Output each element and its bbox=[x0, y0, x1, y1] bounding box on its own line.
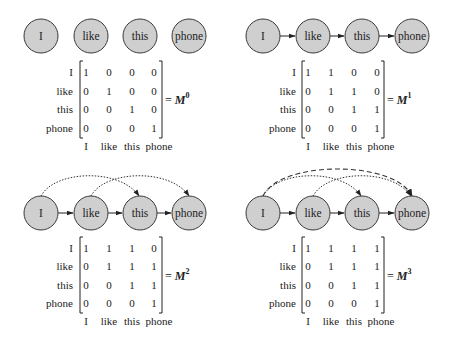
matrix-cell: 0 bbox=[305, 297, 311, 309]
row-label: like bbox=[57, 85, 74, 97]
node-i: I bbox=[24, 196, 58, 230]
matrix-cell: 1 bbox=[151, 260, 157, 272]
row-label: phone bbox=[46, 297, 73, 309]
matrix-cell: 0 bbox=[83, 122, 89, 134]
matrix-cell: 1 bbox=[351, 242, 357, 254]
col-label: phone bbox=[368, 140, 395, 152]
matrix-m3: I like this phone 1 1 1 1 0 1 1 1 0 0 1 … bbox=[269, 237, 411, 327]
node-label: I bbox=[261, 30, 265, 42]
matrix-cell: 1 bbox=[328, 242, 334, 254]
node-i: I bbox=[246, 19, 280, 53]
matrix-cell: 0 bbox=[305, 85, 311, 97]
node-label: like bbox=[304, 30, 321, 42]
node-label: this bbox=[132, 207, 149, 219]
node-label: I bbox=[39, 207, 43, 219]
edge-i-phone-dashed bbox=[263, 169, 412, 196]
matrix-equation: = M2 bbox=[165, 267, 189, 284]
matrix-cell: 0 bbox=[328, 279, 334, 291]
matrix-cell: 0 bbox=[351, 297, 357, 309]
node-phone: phone bbox=[172, 196, 206, 230]
edge-i-this-dotted bbox=[41, 176, 139, 196]
node-this: this bbox=[123, 196, 157, 230]
matrix-cell: 1 bbox=[328, 85, 334, 97]
matrix-cell: 1 bbox=[351, 103, 357, 115]
matrix-cell: 1 bbox=[351, 279, 357, 291]
matrix-cell: 1 bbox=[129, 260, 135, 272]
col-label: I bbox=[306, 315, 310, 327]
matrix-cell: 0 bbox=[83, 85, 89, 97]
node-label: this bbox=[354, 30, 371, 42]
panel-m2: I like this phone I like this phone 1 bbox=[24, 176, 206, 327]
node-label: like bbox=[82, 207, 99, 219]
edge-like-phone-dotted bbox=[313, 176, 411, 196]
matrix-cell: 1 bbox=[129, 103, 135, 115]
matrix-cell: 0 bbox=[151, 103, 157, 115]
edge-like-phone-dotted bbox=[91, 176, 189, 196]
matrix-cell: 1 bbox=[328, 66, 334, 78]
node-i: I bbox=[246, 196, 280, 230]
right-bracket bbox=[159, 61, 162, 138]
matrix-cell: 0 bbox=[106, 103, 112, 115]
matrix-cell: 0 bbox=[351, 66, 357, 78]
graph-m3: I like this phone bbox=[246, 169, 429, 230]
node-phone: phone bbox=[395, 19, 429, 53]
right-bracket bbox=[381, 61, 384, 138]
row-label: phone bbox=[269, 297, 296, 309]
matrix-cell: 1 bbox=[106, 85, 112, 97]
node-label: phone bbox=[175, 30, 203, 43]
node-label: this bbox=[354, 207, 371, 219]
row-label: like bbox=[57, 260, 74, 272]
matrix-cell: 0 bbox=[106, 66, 112, 78]
matrix-cell: 1 bbox=[374, 103, 380, 115]
matrix-equation: = M0 bbox=[165, 91, 189, 108]
row-label: I bbox=[292, 242, 296, 254]
matrix-cell: 1 bbox=[151, 122, 157, 134]
matrix-equation: = M3 bbox=[387, 267, 411, 284]
matrix-cell: 0 bbox=[351, 122, 357, 134]
matrix-cell: 1 bbox=[129, 279, 135, 291]
matrix-cell: 1 bbox=[374, 242, 380, 254]
matrix-cell: 0 bbox=[374, 85, 380, 97]
row-label: phone bbox=[269, 122, 296, 134]
matrix-cell: 0 bbox=[151, 66, 157, 78]
matrix-cell: 1 bbox=[374, 260, 380, 272]
panel-m0: I like this phone I like this phone 1 bbox=[24, 19, 206, 152]
matrix-m0: I like this phone 1 0 0 0 0 1 0 0 0 0 1 … bbox=[46, 61, 189, 152]
matrix-cell: 1 bbox=[151, 279, 157, 291]
matrix-cell: 1 bbox=[374, 122, 380, 134]
matrix-cell: 1 bbox=[83, 242, 89, 254]
panel-m1: I like this phone I like this phone 1 bbox=[246, 19, 429, 152]
col-label: like bbox=[101, 140, 118, 152]
matrix-cell: 0 bbox=[328, 103, 334, 115]
col-label: like bbox=[323, 140, 340, 152]
matrix-cell: 1 bbox=[129, 242, 135, 254]
node-label: I bbox=[261, 207, 265, 219]
matrix-cell: 1 bbox=[351, 260, 357, 272]
matrix-cell: 1 bbox=[151, 297, 157, 309]
matrix-cell: 1 bbox=[374, 279, 380, 291]
matrix-cell: 0 bbox=[129, 66, 135, 78]
node-phone: phone bbox=[395, 196, 429, 230]
col-label: phone bbox=[368, 315, 395, 327]
node-label: phone bbox=[175, 207, 203, 220]
matrix-cell: 0 bbox=[83, 297, 89, 309]
node-phone: phone bbox=[172, 19, 206, 53]
row-label: like bbox=[280, 260, 297, 272]
matrix-cell: 1 bbox=[305, 66, 311, 78]
matrix-cell: 1 bbox=[106, 242, 112, 254]
row-label: like bbox=[280, 85, 297, 97]
node-like: like bbox=[74, 19, 108, 53]
col-label: I bbox=[306, 140, 310, 152]
matrix-cell: 0 bbox=[83, 103, 89, 115]
matrix-cell: 0 bbox=[129, 122, 135, 134]
matrix-cell: 1 bbox=[351, 85, 357, 97]
matrix-cell: 0 bbox=[106, 279, 112, 291]
col-label: I bbox=[84, 315, 88, 327]
right-bracket bbox=[381, 237, 384, 313]
matrix-cell: 0 bbox=[151, 85, 157, 97]
matrix-cell: 0 bbox=[106, 122, 112, 134]
right-bracket bbox=[159, 237, 162, 313]
matrix-cell: 1 bbox=[374, 297, 380, 309]
matrix-equation: = M1 bbox=[387, 91, 411, 108]
matrix-cell: 0 bbox=[305, 103, 311, 115]
